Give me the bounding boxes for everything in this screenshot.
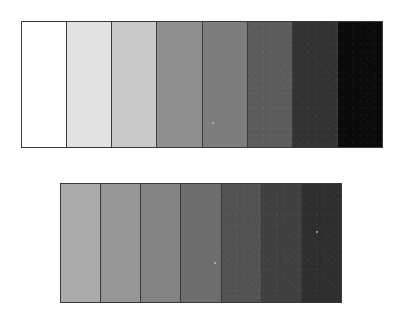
grayscale-patch <box>101 184 141 302</box>
grayscale-patch <box>302 184 341 302</box>
grayscale-patch <box>157 22 202 147</box>
grayscale-patch <box>262 184 302 302</box>
grayscale-patch <box>141 184 181 302</box>
grayscale-patch <box>61 184 101 302</box>
grayscale-wedge-top <box>21 21 383 148</box>
grayscale-wedge-bottom <box>60 183 342 303</box>
grayscale-patch <box>293 22 338 147</box>
grayscale-patch <box>222 184 262 302</box>
grayscale-patch <box>203 22 248 147</box>
grayscale-patch <box>181 184 221 302</box>
grayscale-patch <box>338 22 382 147</box>
grayscale-patch <box>112 22 157 147</box>
grayscale-patch <box>22 22 67 147</box>
grayscale-patch <box>248 22 293 147</box>
grayscale-patch <box>67 22 112 147</box>
